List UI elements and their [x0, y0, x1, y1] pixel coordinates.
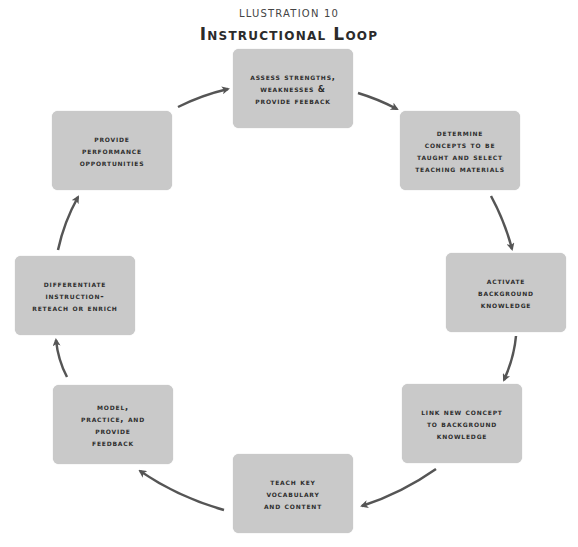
step-teach: Teach key vocabulary and content [233, 454, 353, 533]
step-perform: Provide performance opportunities [52, 111, 172, 190]
step-link: Link new concept to background knowledge [402, 384, 522, 463]
arrow-teach-to-model [140, 471, 224, 510]
step-activate-label: Activate background knowledge [478, 275, 534, 311]
step-model-label: Model, practice, and provide feedback [81, 401, 145, 449]
step-differentiate: differentiate instruction- reteach or en… [15, 256, 135, 335]
step-perform-label: Provide performance opportunities [80, 133, 145, 169]
step-assess-label: Assess strengths, weaknesses & provide f… [250, 71, 335, 107]
arrow-determine-to-activate [491, 196, 512, 249]
step-activate: Activate background knowledge [446, 253, 566, 332]
arrow-model-to-differentiate [56, 340, 67, 377]
step-model: Model, practice, and provide feedback [53, 385, 173, 464]
arrow-assess-to-determine [358, 93, 397, 109]
arrow-link-to-teach [362, 469, 436, 506]
arrow-perform-to-assess [178, 89, 228, 107]
step-determine: Determine concepts to be taught and sele… [400, 111, 520, 190]
step-teach-label: Teach key vocabulary and content [264, 476, 322, 512]
step-differentiate-label: differentiate instruction- reteach or en… [32, 278, 117, 314]
step-link-label: Link new concept to background knowledge [421, 406, 502, 442]
arrow-activate-to-link [504, 336, 516, 380]
step-assess: Assess strengths, weaknesses & provide f… [233, 49, 353, 128]
arrow-differentiate-to-perform [58, 197, 78, 250]
step-determine-label: Determine concepts to be taught and sele… [415, 127, 505, 175]
